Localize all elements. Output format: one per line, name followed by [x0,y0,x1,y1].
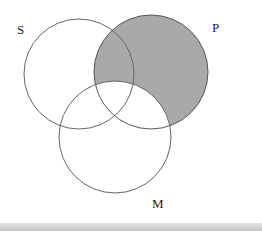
label-s: S [17,22,24,37]
shaded-region-p-not-m [94,15,208,129]
label-p: P [212,20,219,35]
bottom-divider-bar [0,223,262,231]
venn-diagram: S P M [0,0,262,231]
label-m: M [152,196,164,211]
